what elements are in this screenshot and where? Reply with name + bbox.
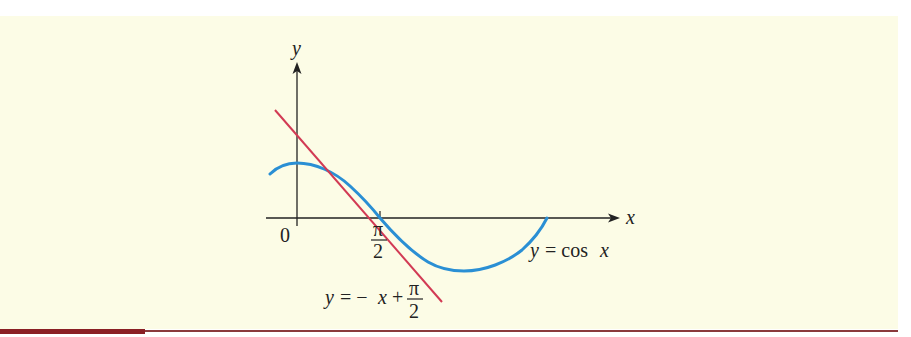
svg-text:+: + [392, 286, 403, 308]
origin-label: 0 [280, 224, 290, 246]
svg-text:x: x [599, 239, 609, 261]
tangent-line [275, 110, 442, 302]
svg-text:y: y [528, 239, 539, 262]
svg-text:x: x [377, 286, 387, 308]
svg-text:2: 2 [373, 240, 383, 262]
svg-text:π: π [409, 277, 419, 299]
cos-curve-label: y = cos x [528, 239, 609, 262]
y-axis-label: y [290, 37, 301, 60]
axes [266, 62, 620, 226]
svg-text:π: π [373, 218, 383, 240]
svg-text:= cos: = cos [545, 239, 588, 261]
plot: y x 0 π 2 y = cos x y = − x + π 2 [0, 0, 911, 337]
x-axis-label: x [625, 206, 635, 228]
tangent-line-label: y = − x + π 2 [323, 277, 423, 322]
cos-curve [270, 163, 547, 271]
svg-text:= −: = − [340, 286, 368, 308]
svg-text:2: 2 [409, 300, 419, 322]
svg-text:y: y [323, 286, 334, 309]
